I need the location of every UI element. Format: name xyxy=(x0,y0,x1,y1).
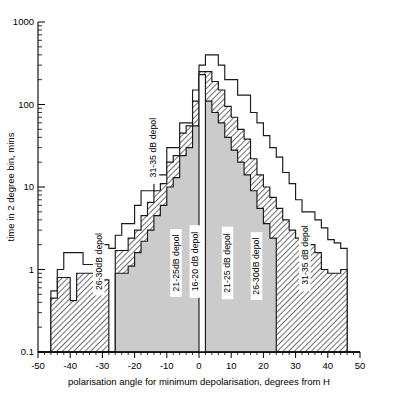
series-label-lab-31-35-left: 31-35 dB depol xyxy=(148,111,160,184)
series-label-lab-26-30-left: 26-30dB depol xyxy=(93,228,105,296)
x-tick-label-4: -10 xyxy=(160,360,174,371)
x-tick-label-10: 50 xyxy=(355,360,366,371)
y-axis-title: time in 2 degree bin, mins xyxy=(5,132,16,241)
y-tick-label-1: 100 xyxy=(18,99,34,110)
x-tick-label-7: 20 xyxy=(258,360,269,371)
series-label-lab-21-25-right: 21-25 dB depol xyxy=(222,227,234,299)
x-tick-label-5: 0 xyxy=(196,360,201,371)
series-label-lab-21-25-left: 21-25dB depol xyxy=(170,229,182,297)
series-label-lab-26-30-right: 26-30dB depol xyxy=(251,232,263,300)
series-label-text: 31-35 dB depol xyxy=(300,225,310,285)
x-tick-label-2: -30 xyxy=(96,360,110,371)
series-label-text: 26-30dB depol xyxy=(251,237,261,294)
series-label-lab-31-35-right: 31-35 dB depol xyxy=(299,219,311,292)
x-tick-label-3: -20 xyxy=(128,360,142,371)
histogram-chart: 10001001010.1 -50-40-30-20-1001020304050… xyxy=(0,0,397,395)
x-tick-label-1: -40 xyxy=(63,360,77,371)
x-axis-title: polarisation angle for minimum depolaris… xyxy=(68,376,330,387)
y-tick-label-2: 10 xyxy=(23,181,34,192)
series-label-text: 31-35 dB depol xyxy=(148,118,158,178)
series-label-text: 26-30dB depol xyxy=(94,233,104,290)
series-label-text: 21-25 dB depol xyxy=(222,233,232,293)
series-label-text: 21-25dB depol xyxy=(171,234,181,291)
y-tick-label-3: 1 xyxy=(29,264,34,275)
figure-root: 10001001010.1 -50-40-30-20-1001020304050… xyxy=(0,0,397,395)
y-tick-label-0: 1000 xyxy=(13,16,34,27)
series-label-lab-16-20: 16-20 dB depol xyxy=(190,225,202,298)
series-label-text: 16-20 dB depol xyxy=(190,232,200,292)
x-tick-label-0: -50 xyxy=(31,360,45,371)
y-tick-label-4: 0.1 xyxy=(21,346,34,357)
x-tick-label-8: 30 xyxy=(290,360,301,371)
x-tick-label-9: 40 xyxy=(323,360,334,371)
x-tick-label-6: 10 xyxy=(226,360,237,371)
